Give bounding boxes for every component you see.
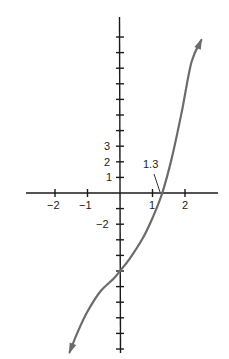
intercept-leader-line xyxy=(154,174,160,192)
y-tick-label-1: 1 xyxy=(106,172,112,183)
graph-canvas xyxy=(0,0,229,359)
x-tick-label-1: 1 xyxy=(149,200,155,211)
arrow-up-icon xyxy=(194,38,202,49)
x-tick-label-2: 2 xyxy=(182,200,188,211)
y-tick-label-neg2: −2 xyxy=(96,219,109,230)
function-curve xyxy=(70,40,202,352)
x-tick-label-neg2: −2 xyxy=(47,200,60,211)
y-tick-label-3: 3 xyxy=(104,141,110,152)
arrow-down-icon xyxy=(69,342,76,354)
x-tick-label-neg1: −1 xyxy=(79,200,92,211)
intercept-annotation: 1.3 xyxy=(143,159,158,170)
y-tick-label-2: 2 xyxy=(104,157,110,168)
